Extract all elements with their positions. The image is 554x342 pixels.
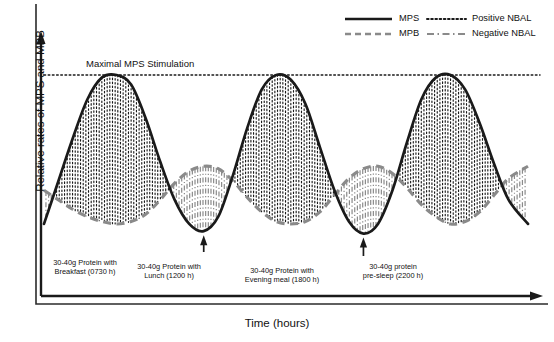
meal-annotation-2: 30-40g Protein with Lunch (1200 h) xyxy=(123,262,215,281)
y-axis-label: Relative rates of MPS and MPB xyxy=(34,0,46,231)
meal-annotation-3-line2: Evening meal (1800 h) xyxy=(228,275,336,284)
meal-arrow-1 xyxy=(200,235,207,252)
meal-arrow-2 xyxy=(360,238,367,256)
chart-canvas xyxy=(0,0,554,342)
meal-annotation-3-line1: 30-40g Protein with xyxy=(228,266,336,275)
legend-label-negative-nbal: Negative NBAL xyxy=(472,28,536,38)
meal-annotation-3: 30-40g Protein with Evening meal (1800 h… xyxy=(228,266,336,285)
meal-annotation-4-line1: 30-40g protein xyxy=(345,262,441,271)
meal-annotation-4-line2: pre-sleep (2200 h) xyxy=(345,271,441,280)
meal-annotation-1-line2: Breakfast (0730 h) xyxy=(39,267,131,276)
meal-annotation-2-line2: Lunch (1200 h) xyxy=(123,271,215,280)
max-stimulation-label: Maximal MPS Stimulation xyxy=(86,58,194,69)
figure-panel: Relative rates of MPS and MPB Time (hour… xyxy=(0,0,554,342)
legend-label-positive-nbal: Positive NBAL xyxy=(472,13,531,23)
positive-nbal-fill xyxy=(57,74,502,224)
meal-arrow-group xyxy=(200,235,367,256)
x-axis-label: Time (hours) xyxy=(0,317,554,329)
legend-label-mpb: MPB xyxy=(399,28,419,38)
legend-label-mps: MPS xyxy=(399,13,419,23)
meal-annotation-2-line1: 30-40g Protein with xyxy=(123,262,215,271)
meal-annotation-1: 30-40g Protein with Breakfast (0730 h) xyxy=(39,258,131,277)
meal-annotation-1-line1: 30-40g Protein with xyxy=(39,258,131,267)
meal-annotation-4: 30-40g protein pre-sleep (2200 h) xyxy=(345,262,441,281)
